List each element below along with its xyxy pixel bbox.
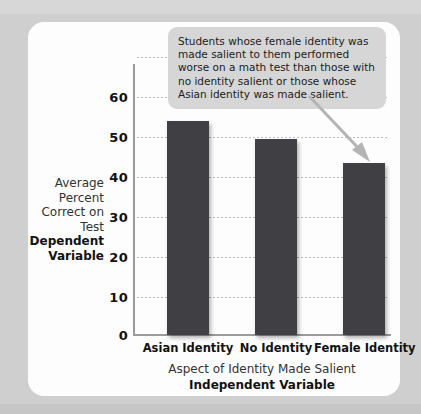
bar-female-identity: [343, 163, 385, 335]
bar-asian-identity: [167, 121, 209, 335]
y-tick-label-60: 60: [88, 90, 128, 105]
bar-chart: 60 50 40 30 20 10 0 Asian Identity No Id…: [0, 0, 421, 414]
chart-page: 60 50 40 30 20 10 0 Asian Identity No Id…: [0, 0, 421, 414]
y-tick-label-10: 10: [88, 290, 128, 305]
bar-no-identity: [255, 139, 297, 335]
x-tick-label-female-identity: Female Identity: [314, 341, 414, 355]
x-axis-title: Aspect of Identity Made Salient: [133, 362, 391, 376]
x-axis-title-bold: Independent Variable: [133, 378, 391, 392]
x-tick-label-asian-identity: Asian Identity: [142, 341, 234, 355]
y-axis-title-block: Average Percent Correct on Test Dependen…: [26, 176, 104, 263]
y-axis-title: Average Percent Correct on Test: [41, 176, 104, 234]
annotation-arrow-icon: [300, 92, 392, 172]
y-axis-line: [133, 64, 135, 336]
x-tick-label-no-identity: No Identity: [234, 341, 318, 355]
y-tick-label-50: 50: [88, 130, 128, 145]
y-tick-label-0: 0: [88, 328, 128, 343]
y-axis-title-bold: Dependent Variable: [26, 234, 104, 263]
